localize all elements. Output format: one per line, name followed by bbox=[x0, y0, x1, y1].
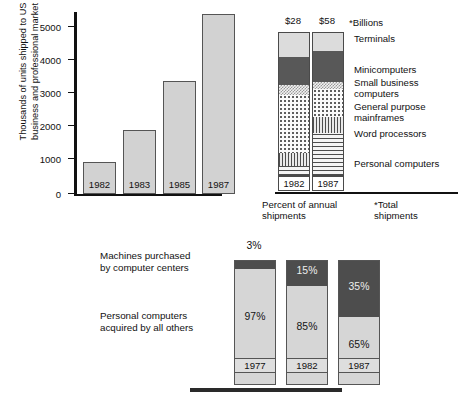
chart1-ticklabel-5000: 5000 bbox=[40, 21, 61, 32]
chart2-segment-minicomputers-1987 bbox=[313, 51, 343, 82]
chart1-ticklabel-0: 0 bbox=[56, 188, 61, 199]
chart1-tick-4000: 4000 bbox=[68, 59, 74, 60]
chart2-segment-word-processors-1987 bbox=[313, 117, 343, 133]
chart1-tick-1000: 1000 bbox=[68, 158, 74, 159]
chart2-footnote: *Total shipments bbox=[374, 199, 418, 222]
chart2-legend-small-business: Small business computers bbox=[354, 77, 419, 100]
chart2-legend-word-processors: Word processors bbox=[354, 128, 426, 139]
chart2-segment-personal-computers-1987 bbox=[313, 133, 343, 175]
chart2-bar-1987 bbox=[312, 32, 344, 176]
chart1-x-axis-line bbox=[74, 194, 222, 197]
chart1-ticklabel-3000: 3000 bbox=[40, 87, 61, 98]
chart1-bar-label-1985: 1985 bbox=[164, 179, 195, 190]
chart3-pct-others-1987: 65% bbox=[339, 339, 379, 350]
chart2-segment-small-business-1987 bbox=[313, 82, 343, 89]
chart2-segment-mainframes-1987 bbox=[313, 89, 343, 117]
chart1-bar-1985: 1985 bbox=[163, 81, 196, 194]
chart2-total-1987: $58 bbox=[307, 15, 347, 26]
chart1-tick-5000: 5000 bbox=[68, 26, 74, 27]
chart2-legend-mainframes: General purpose mainframes bbox=[354, 101, 425, 124]
chart2-legend-terminals: Terminals bbox=[354, 33, 395, 44]
chart2-segment-personal-computers-1982 bbox=[279, 166, 309, 175]
chart3-segment-others-1987: 65% bbox=[339, 317, 379, 384]
chart2-year-label-1987: 1987 bbox=[312, 176, 344, 191]
chart1-tick-3000: 3000 bbox=[68, 92, 74, 93]
chart3-label-all-others: Personal computers acquired by all other… bbox=[100, 310, 228, 334]
chart2-year-label-1982: 1982 bbox=[278, 176, 310, 191]
chart2-segment-terminals-1982 bbox=[279, 33, 309, 57]
chart2-bar-1982 bbox=[278, 32, 310, 176]
chart1-ticklabel-2000: 2000 bbox=[40, 120, 61, 131]
chart2-segment-word-processors-1982 bbox=[279, 153, 309, 166]
chart3-segment-centers-1977 bbox=[235, 261, 275, 269]
chart3-segment-centers-1987: 35% bbox=[339, 261, 379, 317]
chart2-segment-minicomputers-1982 bbox=[279, 57, 309, 85]
chart1-ticklabel-4000: 4000 bbox=[40, 54, 61, 65]
chart1-bar-label-1983: 1983 bbox=[124, 179, 155, 190]
chart2-legend-personal-computers: Personal computers bbox=[354, 158, 439, 169]
chart3-pct-others-1982: 85% bbox=[287, 321, 327, 332]
chart3-pct-centers-1987: 35% bbox=[339, 281, 379, 292]
chart3-baseline bbox=[190, 388, 342, 392]
chart3-segment-centers-1982: 15% bbox=[287, 261, 327, 286]
chart3-year-label-1977: 1977 bbox=[234, 358, 276, 373]
chart1-y-axis-line bbox=[74, 12, 77, 196]
chart2-segment-terminals-1987 bbox=[313, 33, 343, 51]
chart1-bar-1982: 1982 bbox=[83, 162, 116, 194]
chart3-label-computer-centers: Machines purchased by computer centers bbox=[100, 250, 228, 274]
chart1-ticklabel-1000: 1000 bbox=[40, 153, 61, 164]
chart2-legend-billions-note: *Billions bbox=[349, 17, 383, 28]
chart3-year-label-1982: 1982 bbox=[286, 358, 328, 373]
chart3-year-label-1987: 1987 bbox=[338, 358, 380, 373]
chart1-tick-0: 0 bbox=[68, 193, 74, 194]
chart2-segment-mainframes-1982 bbox=[279, 95, 309, 153]
chart1-bar-label-1982: 1982 bbox=[84, 179, 115, 190]
units-shipped-bar-chart: Thousands of units shipped to US busines… bbox=[0, 0, 229, 212]
chart2-baseline bbox=[275, 192, 458, 194]
personal-computer-buyers-chart: Machines purchased by computer centers P… bbox=[0, 228, 458, 412]
chart1-y-axis-label: Thousands of units shipped to US busines… bbox=[18, 0, 41, 159]
annual-shipments-composition-chart: $28 $58 1982 1987 *Billions Terminals Mi… bbox=[229, 0, 458, 232]
chart2-legend-minicomputers: Minicomputers bbox=[354, 64, 416, 75]
chart1-plot-area: 5000 4000 3000 2000 1000 0 1982 1983 198… bbox=[74, 12, 222, 196]
chart1-bar-1983: 1983 bbox=[123, 130, 156, 194]
chart2-segment-small-business-1982 bbox=[279, 85, 309, 95]
chart3-pct-others-1977: 97% bbox=[235, 311, 275, 322]
chart3-pct-centers-1982: 15% bbox=[287, 265, 327, 276]
chart3-external-label-1977: 3% bbox=[234, 240, 274, 251]
chart1-tick-2000: 2000 bbox=[68, 125, 74, 126]
chart2-x-axis-caption: Percent of annual shipments bbox=[262, 199, 337, 222]
